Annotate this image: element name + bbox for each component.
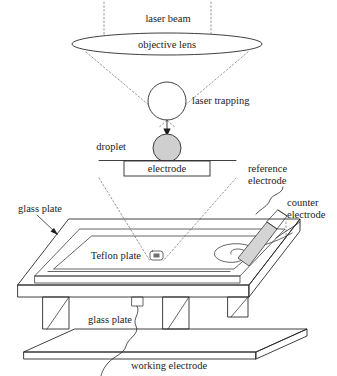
counter-electrode-label-line2: electrode	[287, 209, 326, 220]
laser-beam-label: laser beam	[145, 13, 190, 24]
droplet-label: droplet	[96, 141, 126, 152]
droplet-sphere	[153, 134, 181, 162]
support-leg-right	[163, 297, 189, 329]
glass-plate-top-label: glass plate	[18, 203, 62, 214]
counter-electrode-label-line1: counter	[287, 197, 319, 208]
reference-electrode-leader	[256, 187, 283, 214]
objective-lens-label: objective lens	[138, 39, 196, 50]
glass-plate-bottom-label: glass plate	[88, 314, 132, 325]
lower-ray-left	[99, 178, 150, 261]
perspective-edge-left	[47, 297, 69, 329]
laser-trapping-label: laser trapping	[192, 95, 250, 106]
teflon-plate-label: Teflon plate	[91, 250, 142, 261]
working-electrode-label: working electrode	[131, 360, 207, 371]
lower-glass-plate-front-edge	[24, 352, 256, 359]
electrode-label: electrode	[148, 163, 187, 174]
working-electrode-connector	[132, 297, 143, 306]
reference-electrode-label-line2: electrode	[248, 175, 287, 186]
perspective-edge-right	[231, 297, 248, 317]
reference-electrode-label-line1: reference	[248, 163, 287, 174]
glass-plate-top-leader	[37, 215, 58, 235]
diagram-canvas: laser beam objective lens laser trapping…	[0, 0, 337, 376]
support-leg-left	[43, 297, 69, 329]
schematic-figure: laser beam objective lens laser trapping…	[0, 0, 337, 376]
lower-glass-plate-right-edge	[256, 329, 307, 359]
support-legs	[43, 297, 248, 329]
perspective-edge-mid	[168, 297, 189, 329]
teflon-plate-front-edge	[35, 276, 240, 283]
upper-glass-plate-front-edge	[18, 285, 249, 297]
teflon-well-icon	[150, 251, 163, 260]
lower-ray-right	[163, 178, 236, 261]
laser-trapping-sphere	[148, 82, 186, 120]
lower-laser-rays	[99, 178, 236, 261]
